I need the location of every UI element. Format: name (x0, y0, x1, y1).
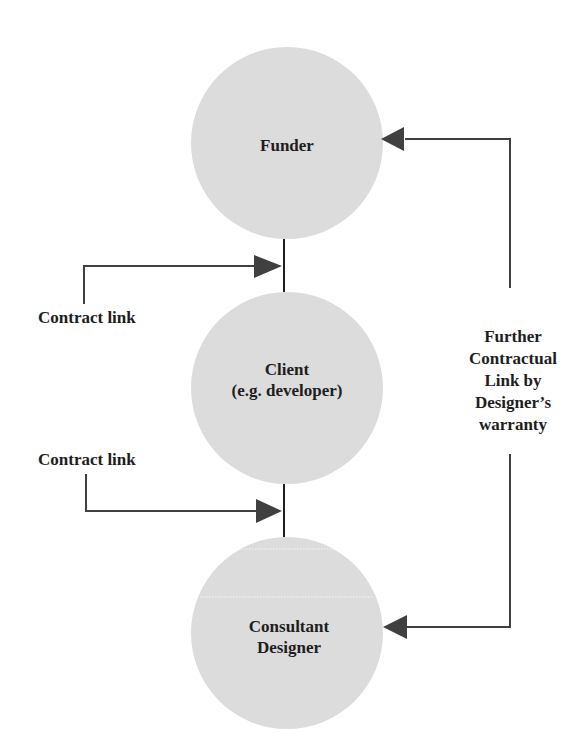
contract-link-1-label: Contract link (38, 307, 136, 329)
contract-link-1-line (84, 266, 256, 304)
client-label: Client (e.g. developer) (232, 359, 343, 401)
client-label-line1: Client (232, 359, 343, 380)
further-line2: Contractual (469, 348, 557, 370)
further-link-top-line (405, 139, 510, 288)
funder-label: Funder (260, 135, 314, 156)
arrow-right-icon (254, 255, 282, 278)
client-label-line2: (e.g. developer) (232, 380, 343, 401)
contract-link-2-line (86, 474, 256, 511)
further-line5: warranty (469, 414, 557, 436)
consultant-designer-label: Consultant Designer (249, 616, 329, 658)
further-line1: Further (469, 326, 557, 348)
further-link-bottom-line (407, 454, 510, 627)
arrow-left-icon (381, 127, 404, 151)
arrow-left-icon (383, 615, 407, 639)
consultant-label-line1: Consultant (249, 616, 329, 637)
contract-link-2-label: Contract link (38, 449, 136, 471)
further-line3: Link by (469, 370, 557, 392)
further-contractual-link-label: Further Contractual Link by Designer’s w… (469, 326, 557, 436)
further-line4: Designer’s (469, 392, 557, 414)
consultant-label-line2: Designer (249, 637, 329, 658)
arrow-right-icon (256, 499, 282, 523)
